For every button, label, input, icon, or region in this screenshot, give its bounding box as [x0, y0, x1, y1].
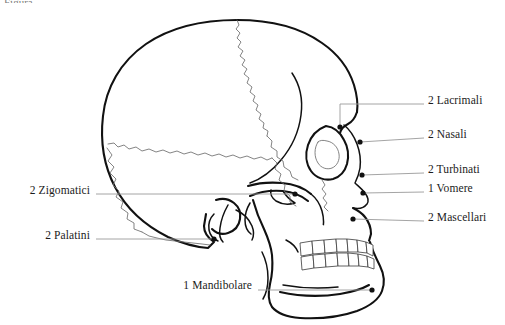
maxilla-front: [353, 208, 371, 241]
mastoid-process: [212, 199, 240, 234]
nasali-dot: [357, 139, 362, 144]
mandibolare-dot: [369, 287, 374, 292]
label-nasali: 2 Nasali: [428, 128, 467, 140]
label-turbinati: 2 Turbinati: [428, 163, 480, 175]
label-vomere: 1 Vomere: [428, 182, 473, 194]
label-lacrimali: 2 Lacrimali: [428, 94, 482, 106]
lacrimali-dot: [337, 124, 342, 129]
orbit-outline: [306, 126, 348, 180]
mandible-ramus-inner: [262, 252, 268, 299]
cranium-outline-upper-right: [237, 20, 357, 112]
nasal-profile: [344, 125, 368, 208]
leader-turbinati: [362, 173, 424, 175]
label-mandibolare: 1 Mandibolare: [80, 279, 252, 291]
turbinati-dot: [359, 172, 364, 177]
palatini-dot: [211, 236, 216, 241]
zygomatico-maxillary-suture: [322, 180, 328, 211]
cranium-group: [102, 20, 384, 318]
skull-anatomy-figure: Figura: [0, 0, 505, 325]
label-zigomatici: 2 Zigomatici: [0, 184, 90, 196]
leader-nasali: [360, 138, 424, 142]
mascellari-dot: [350, 216, 355, 221]
leader-vomere: [363, 192, 424, 193]
label-mascellari: 2 Mascellari: [428, 211, 486, 223]
label-palatini: 2 Palatini: [0, 229, 90, 241]
vomere-dot: [360, 190, 365, 195]
zigomatici-dot: [292, 191, 297, 196]
